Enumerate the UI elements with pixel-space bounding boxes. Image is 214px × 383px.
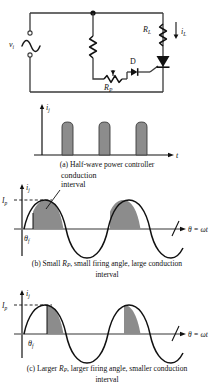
caption-b-rest: , small firing angle, large conduction: [70, 259, 182, 268]
chart-b-sine: ij θ = ωt Ip θf conduction interval: [1, 171, 209, 258]
chart-b-ylabel: ij: [26, 183, 30, 193]
chart-a-yaxis-arrowhead: [40, 104, 44, 109]
chart-a-pulses: ij t: [34, 103, 179, 160]
potentiometer: [104, 76, 122, 83]
circuit-diagram: vi RP D RL iL: [9, 10, 186, 93]
chart-c-firing-label: θf: [28, 339, 35, 349]
caption-c-rest: , larger firing angle, smaller conductio…: [67, 364, 187, 373]
chart-a-ylabel: ij: [46, 103, 50, 113]
chart-c-ylabel: ij: [26, 289, 30, 299]
chart-b-conduction-area-2: [110, 200, 141, 229]
series-resistor: [90, 36, 97, 58]
caption-c-line2: interval: [0, 375, 214, 383]
figure-root: vi RP D RL iL: [0, 0, 214, 383]
chart-a-pulse-3: [136, 122, 147, 155]
chart-b-yaxis-arrowhead: [20, 184, 24, 189]
chart-b-xlabel: θ = ωt: [188, 225, 209, 234]
diode-icon: [131, 68, 138, 76]
potentiometer-label: RP: [103, 83, 113, 93]
load-resistor-label: RL: [142, 25, 151, 35]
chart-c-xlabel: θ = ωt: [188, 330, 209, 339]
chart-c-sine: ij θ = ωt Ip θf: [1, 289, 209, 363]
caption-a: (a) Half-wave power controller: [0, 160, 214, 169]
caption-b: (b) Small RP, small firing angle, large …: [0, 259, 214, 279]
caption-c-prefix: (c) Larger: [27, 364, 59, 373]
thyristor-scr-icon: [157, 56, 170, 67]
chart-a-xlabel: t: [176, 151, 179, 160]
chart-b-conduction-area-1: [33, 200, 64, 229]
chart-a-pulse-1: [62, 122, 73, 155]
source-terminal-bottom: [28, 53, 32, 57]
source-terminal-top: [28, 31, 32, 35]
source-label: vi: [9, 40, 15, 50]
chart-b-firing-label: θf: [24, 234, 31, 244]
caption-b-prefix: (b) Small: [32, 259, 62, 268]
chart-c-xaxis-arrowhead: [180, 332, 186, 336]
chart-a-xaxis-arrowhead: [168, 153, 174, 157]
mid-branch-wire-lower: [93, 58, 104, 79]
chart-b-annotation-line1: conduction: [61, 171, 97, 180]
caption-c: (c) Larger RP, larger firing angle, smal…: [0, 364, 214, 383]
chart-b-xaxis-arrowhead: [180, 227, 186, 231]
chart-c-yaxis-arrowhead: [20, 290, 24, 295]
load-current-arrowhead: [174, 35, 179, 40]
chart-b-peak-label: Ip: [1, 196, 8, 206]
chart-a-pulse-2: [99, 122, 110, 155]
chart-c-peak-label: Ip: [1, 301, 8, 311]
load-current-label: iL: [181, 27, 186, 37]
caption-b-line2: interval: [0, 270, 214, 279]
ac-source-sine-icon: [22, 41, 40, 52]
diode-label: D: [130, 57, 136, 66]
potentiometer-wiper-arrowhead: [111, 71, 116, 75]
chart-b-annotation-line2: interval: [61, 180, 86, 189]
